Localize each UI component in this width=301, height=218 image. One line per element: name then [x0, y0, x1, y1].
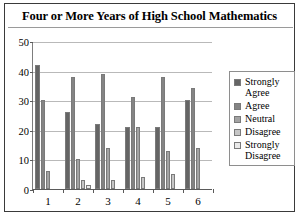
legend-label: Neutral: [245, 113, 275, 124]
bar-group: [93, 42, 123, 189]
legend-swatch-icon: [234, 103, 241, 110]
bar: [106, 148, 111, 189]
x-axis-tick-mark: [153, 189, 154, 193]
x-axis-tick-label: 4: [135, 195, 141, 207]
bar: [131, 97, 136, 189]
y-axis-tick-label: 40: [19, 66, 30, 77]
y-axis-tick-label: 50: [19, 37, 30, 48]
legend-swatch-icon: [234, 142, 241, 149]
bar: [76, 159, 81, 189]
bar: [191, 88, 196, 189]
x-axis-tick-mark: [213, 189, 214, 193]
bar: [101, 74, 106, 189]
x-axis-tick-mark: [93, 189, 94, 193]
plot-area: 01020304050 123456: [32, 42, 212, 190]
bar: [141, 177, 146, 189]
bar: [125, 127, 130, 189]
bar-group: [123, 42, 153, 189]
y-axis-tick-label: 20: [19, 125, 30, 136]
bar: [185, 100, 190, 189]
y-axis-tick-label: 0: [24, 185, 29, 196]
y-axis-tick-label: 30: [19, 96, 30, 107]
x-axis-tick-label: 3: [105, 195, 111, 207]
legend-label: Strongly Agree: [245, 76, 291, 98]
x-axis-tick-mark: [123, 189, 124, 193]
x-axis-tick-label: 1: [45, 195, 51, 207]
legend-label: Agree: [245, 100, 269, 111]
legend-item: Agree: [234, 100, 291, 111]
title-divider: [8, 27, 293, 28]
bar: [71, 77, 76, 189]
bar: [196, 148, 201, 189]
chart-title: Four or More Years of High School Mathem…: [5, 9, 294, 24]
legend-item: Strongly Agree: [234, 76, 291, 98]
legend-item: Neutral: [234, 113, 291, 124]
bar: [161, 77, 166, 189]
y-axis-tick-label: 10: [19, 155, 30, 166]
x-axis-tick-mark: [183, 189, 184, 193]
x-axis-tick-label: 2: [75, 195, 81, 207]
bar: [65, 112, 70, 189]
legend-label: Disagree: [245, 126, 281, 137]
bar-group: [153, 42, 183, 189]
legend-item: Strongly Disagree: [234, 139, 291, 161]
bar-group: [63, 42, 93, 189]
bar: [46, 171, 51, 189]
x-axis-tick-label: 6: [195, 195, 201, 207]
chart-frame: Four or More Years of High School Mathem…: [4, 3, 295, 212]
chart-legend: Strongly AgreeAgreeNeutralDisagreeStrong…: [229, 71, 295, 166]
bar: [136, 127, 141, 189]
bars-layer: [33, 42, 212, 189]
x-axis-tick-mark: [63, 189, 64, 193]
legend-swatch-icon: [234, 116, 241, 123]
legend-swatch-icon: [234, 79, 241, 86]
bar: [86, 185, 91, 189]
bar-group: [33, 42, 63, 189]
bar-group: [183, 42, 213, 189]
x-axis-tick-mark: [33, 189, 34, 193]
bar: [171, 174, 176, 189]
bar: [155, 127, 160, 189]
bar: [35, 65, 40, 189]
legend-swatch-icon: [234, 129, 241, 136]
legend-label: Strongly Disagree: [245, 139, 291, 161]
legend-item: Disagree: [234, 126, 291, 137]
bar: [41, 100, 46, 189]
bar: [111, 180, 116, 189]
x-axis-tick-label: 5: [165, 195, 171, 207]
bar: [95, 124, 100, 189]
bar: [166, 151, 171, 189]
bar: [81, 180, 86, 189]
